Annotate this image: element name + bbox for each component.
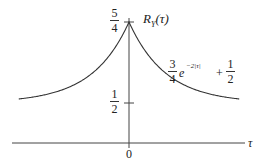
y-axis-label: RY(τ) — [143, 12, 169, 29]
y-tick-label-1-2: 1 2 — [110, 88, 119, 115]
x-axis-label: τ — [248, 137, 252, 149]
y-tick-label-5-4: 5 4 — [110, 7, 119, 34]
origin-label: 0 — [126, 148, 132, 160]
function-label: 3 4 e −2|τ| + 1 2 — [168, 58, 248, 88]
